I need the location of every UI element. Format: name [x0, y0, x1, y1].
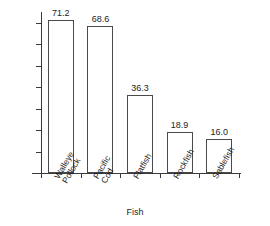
- x-tick-mark: [199, 173, 200, 178]
- x-tick-mark: [81, 173, 82, 178]
- bar-series: 71.268.636.318.916.0: [41, 12, 239, 173]
- bar-chart-figure: 10203040506070 71.268.636.318.916.0 Wall…: [0, 0, 270, 226]
- x-axis-title: Fish: [0, 207, 270, 217]
- bar: [48, 20, 74, 173]
- bar-value-label: 36.3: [119, 84, 161, 93]
- x-tick-mark: [41, 173, 42, 178]
- chart-title: [0, 0, 270, 2]
- bar: [87, 26, 113, 173]
- bar-item: 71.2: [48, 12, 74, 173]
- bar-value-label: 68.6: [79, 15, 121, 24]
- x-tick-mark: [120, 173, 121, 178]
- bar-item: 68.6: [87, 12, 113, 173]
- bar-value-label: 18.9: [159, 121, 201, 130]
- bar-item: 36.3: [127, 12, 153, 173]
- plot-area: 10203040506070 71.268.636.318.916.0: [41, 12, 239, 173]
- bar-value-label: 16.0: [198, 128, 240, 137]
- x-tick-mark: [160, 173, 161, 178]
- x-tick-mark: [239, 173, 240, 178]
- bar-value-label: 71.2: [40, 9, 82, 18]
